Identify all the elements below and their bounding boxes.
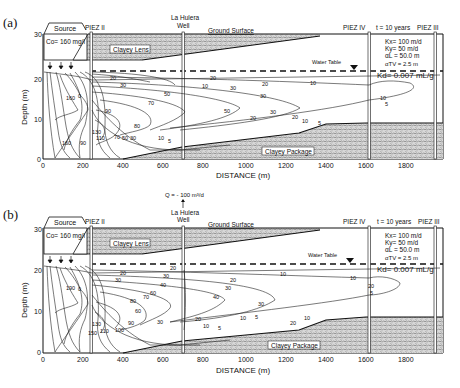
- svg-text:40: 40: [213, 294, 219, 300]
- x-tick: 200: [77, 162, 89, 169]
- svg-text:10: 10: [280, 271, 286, 277]
- param-alpha-tv: αTV = 2.5 m: [385, 255, 418, 261]
- source-concentration: Co= 160 mg/l: [46, 38, 85, 46]
- y-tick: 20: [34, 76, 42, 83]
- svg-text:30: 30: [260, 93, 266, 99]
- source-label: Source: [54, 25, 76, 32]
- x-tick: 800: [197, 356, 209, 363]
- piez-iii-label: PIEZ III: [418, 218, 440, 225]
- svg-text:40: 40: [160, 282, 166, 288]
- svg-text:5: 5: [318, 120, 321, 126]
- svg-text:60: 60: [135, 308, 141, 314]
- param-alpha-tv: αTV = 2.5 m: [385, 61, 418, 67]
- svg-text:90: 90: [128, 320, 134, 326]
- x-tick: 1800: [398, 356, 414, 363]
- svg-text:130: 130: [92, 321, 101, 327]
- svg-text:10: 10: [158, 135, 164, 141]
- pumping-arrow-icon: [181, 199, 185, 208]
- svg-text:50: 50: [224, 108, 230, 114]
- x-tick: 1200: [278, 356, 294, 363]
- svg-text:50: 50: [122, 135, 128, 141]
- x-tick: 600: [157, 356, 169, 363]
- piez-ii-casing: [90, 32, 93, 159]
- y-tick: 10: [34, 308, 42, 315]
- svg-text:30: 30: [163, 273, 169, 279]
- svg-text:10: 10: [302, 118, 308, 124]
- piez-iii-label: PIEZ III: [417, 24, 439, 31]
- x-tick: 0: [41, 162, 45, 169]
- y-axis-title: Depth (m): [20, 282, 29, 318]
- well-label: Well: [177, 216, 190, 223]
- clayey-lens-label: Clayey Lens: [113, 240, 150, 248]
- piez-ii-label: PIEZ II: [85, 218, 105, 225]
- x-tick: 1000: [238, 356, 254, 363]
- svg-text:150: 150: [88, 330, 97, 336]
- param-alpha-l: αL = 50.0 m: [385, 52, 419, 59]
- svg-text:20: 20: [170, 265, 176, 271]
- time-label: t = 10 years: [376, 24, 411, 32]
- svg-text:20: 20: [210, 75, 216, 81]
- well-name: La Hulera: [171, 14, 200, 21]
- parameter-box: Kx= 100 m/d Ky= 50 m/d αL = 50.0 m αTV =…: [377, 38, 434, 80]
- x-tick: 1200: [278, 162, 294, 169]
- svg-text:110: 110: [100, 328, 109, 334]
- x-tick: 1600: [358, 356, 374, 363]
- svg-text:20: 20: [292, 114, 298, 120]
- svg-text:5: 5: [168, 138, 171, 144]
- x-axis: 0 200 400 600 800 1000 1200 1400 1600 18…: [41, 356, 414, 375]
- x-tick: 400: [117, 162, 129, 169]
- svg-text:30: 30: [258, 301, 264, 307]
- clayey-lens-label: Clayey Lens: [113, 46, 150, 54]
- svg-text:30: 30: [157, 319, 163, 325]
- source-label: Source: [54, 219, 76, 226]
- piez-iv-label: PIEZ IV: [343, 24, 366, 31]
- piez-ii-label: PIEZ II: [85, 24, 105, 31]
- x-tick: 1400: [318, 162, 334, 169]
- svg-text:20: 20: [195, 316, 201, 322]
- x-tick: 600: [157, 162, 169, 169]
- piez-iii-casing: [434, 32, 437, 159]
- param-kx: Kx= 100 m/d: [385, 38, 422, 45]
- ground-surface-label: Ground Surface: [208, 221, 254, 228]
- well-casing: [182, 226, 185, 353]
- x-tick: 1800: [398, 162, 414, 169]
- water-table-label: Water Table: [312, 59, 341, 65]
- param-kx: Kx= 100 m/d: [385, 232, 422, 239]
- svg-text:0: 0: [78, 286, 81, 292]
- x-axis: 0 200 400 600 800 1000 1200 1400 1600 18…: [41, 162, 414, 180]
- x-axis-title: DISTANCE (m): [216, 171, 270, 180]
- svg-text:20: 20: [290, 320, 296, 326]
- svg-text:30: 30: [225, 285, 231, 291]
- panel-letter: (a): [3, 15, 17, 30]
- svg-text:30: 30: [230, 85, 236, 91]
- x-tick: 200: [77, 356, 89, 363]
- clayey-package-label: Clayey Package: [271, 342, 318, 350]
- piez-iv-casing: [368, 32, 371, 159]
- svg-text:70: 70: [148, 100, 154, 106]
- parameter-box: Kx= 100 m/d Ky= 50 m/d αL = 50.0 m αTV =…: [377, 232, 434, 274]
- svg-text:100: 100: [115, 327, 124, 333]
- well-name: La Hulera: [171, 209, 200, 216]
- svg-text:10: 10: [203, 323, 209, 329]
- svg-text:10: 10: [304, 315, 310, 321]
- svg-text:60: 60: [150, 290, 156, 296]
- water-table-icon: [350, 65, 358, 70]
- svg-text:5: 5: [385, 101, 388, 107]
- svg-text:70: 70: [143, 294, 149, 300]
- param-kd: Kd= 0.007 mL/g: [377, 265, 434, 274]
- param-alpha-l: αL = 50.0 m: [385, 246, 419, 253]
- svg-text:20: 20: [230, 277, 236, 283]
- y-axis: 30 20 10 0 Depth (m): [20, 31, 42, 163]
- svg-text:190: 190: [66, 285, 75, 291]
- svg-text:5: 5: [218, 325, 221, 331]
- svg-text:10: 10: [202, 83, 208, 89]
- svg-text:110: 110: [96, 135, 105, 141]
- svg-text:20: 20: [110, 75, 116, 81]
- x-tick: 400: [117, 356, 129, 363]
- time-label: t = 10 years: [377, 218, 412, 226]
- source-concentration: Co= 160 mg/l: [46, 232, 85, 240]
- y-tick: 30: [34, 226, 42, 233]
- svg-text:20: 20: [368, 283, 374, 289]
- svg-text:70: 70: [114, 134, 120, 140]
- svg-text:20: 20: [262, 81, 268, 87]
